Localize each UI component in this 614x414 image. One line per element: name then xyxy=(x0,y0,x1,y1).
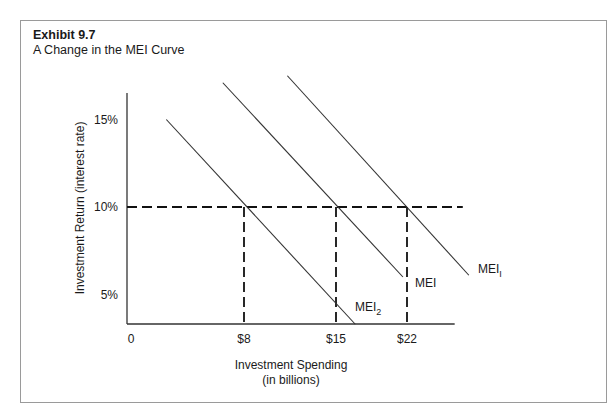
x-axis-label: Investment Spending xyxy=(235,358,348,372)
x-tick-label: $8 xyxy=(237,332,251,346)
y-axis-label: Investment Return (interest rate) xyxy=(73,122,87,295)
x-tick-label: 0 xyxy=(128,332,135,346)
x-axis-sublabel: (in billions) xyxy=(262,373,319,387)
curve-label-subscript: I xyxy=(499,269,502,279)
curve-mei1 xyxy=(287,76,469,276)
y-tick-label: 5% xyxy=(101,288,119,302)
curve-label-mei1: MEII xyxy=(478,262,502,279)
y-tick-label: 10% xyxy=(94,200,118,214)
curve-label-mei: MEI xyxy=(415,276,436,290)
curve-label-mei2: MEI2 xyxy=(355,300,381,317)
curve-mei2 xyxy=(166,120,355,325)
curve-mei xyxy=(223,83,403,277)
mei-chart: 0$8$15$225%10%15%MEI2MEIMEII Investment … xyxy=(0,0,614,414)
x-tick-label: $22 xyxy=(397,332,417,346)
x-tick-label: $15 xyxy=(326,332,346,346)
curve-label-subscript: 2 xyxy=(376,307,381,317)
y-tick-label: 15% xyxy=(94,113,118,127)
